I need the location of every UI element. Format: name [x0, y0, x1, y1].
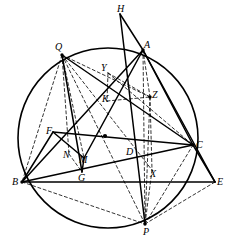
point-label-C: C — [196, 140, 203, 150]
point-label-G: G — [78, 173, 85, 183]
point-label-A: A — [144, 40, 150, 50]
point-label-Q: Q — [55, 42, 62, 52]
point-label-B: B — [12, 177, 18, 187]
point-label-D: D — [126, 147, 133, 157]
segment-Z-X — [150, 97, 152, 170]
segment-Q-N — [62, 55, 69, 154]
point-label-Y: Y — [101, 63, 107, 73]
segment-Q-B — [22, 55, 62, 182]
vertex-dot-Q — [60, 53, 63, 56]
geometry-figure: HQAYKZFCNMDBGXEP — [0, 0, 234, 252]
point-label-N: N — [63, 150, 70, 160]
segment-H-P — [120, 14, 145, 224]
point-label-H: H — [117, 4, 124, 14]
center-arrow-marker — [103, 134, 107, 138]
point-label-Z: Z — [152, 90, 158, 100]
markers-layer — [103, 134, 107, 138]
point-label-F: F — [46, 126, 52, 136]
segment-B-F — [22, 132, 53, 182]
segment-A-P — [143, 50, 145, 224]
segment-F-C — [53, 132, 193, 145]
point-label-E: E — [217, 177, 223, 187]
geometry-canvas — [0, 0, 234, 252]
segment-C-E — [193, 145, 215, 182]
segment-Q-X — [62, 55, 152, 170]
point-label-P: P — [143, 227, 149, 237]
segment-B-P — [22, 182, 145, 224]
point-label-M: M — [79, 155, 87, 165]
point-label-K: K — [102, 94, 109, 104]
vertex-dot-B — [20, 180, 23, 183]
vertex-dot-C — [191, 143, 194, 146]
point-label-X: X — [150, 169, 156, 179]
segment-Q-C — [62, 55, 193, 145]
solid-segments-layer — [22, 14, 215, 224]
segment-P-E — [145, 182, 215, 224]
segment-A-E — [143, 50, 215, 182]
segment-B-C — [22, 145, 193, 182]
